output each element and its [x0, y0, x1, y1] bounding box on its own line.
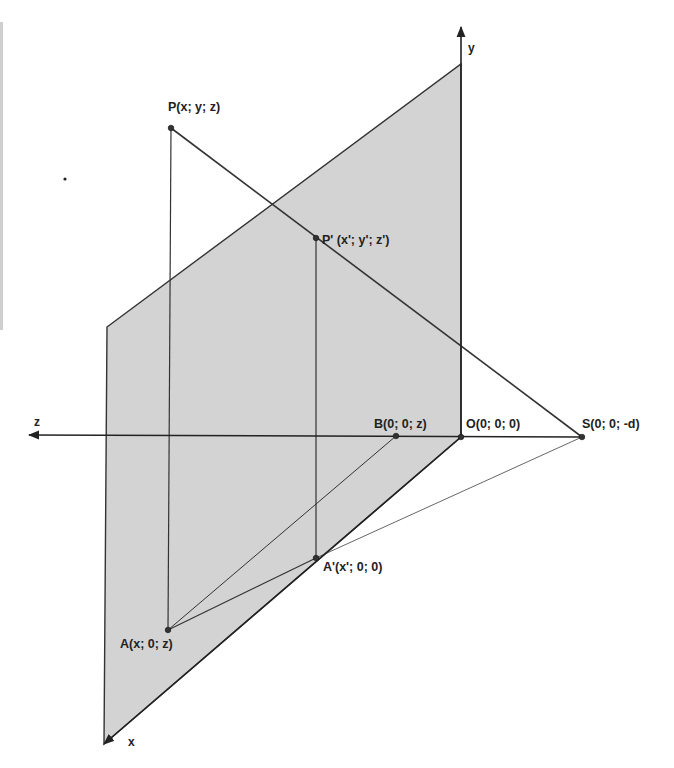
point-label-a-prime: A'(x'; 0; 0): [323, 560, 382, 574]
point-o: [458, 434, 464, 440]
y-axis-label: y: [468, 41, 475, 55]
z-axis-label: z: [34, 415, 40, 429]
point-label-s: S(0; 0; -d): [582, 417, 640, 431]
point-s: [579, 434, 585, 440]
stray-mark: [63, 177, 66, 180]
perspective-projection-diagram: xyz P(x; y; z)P' (x'; y'; z')B(0; 0; z)O…: [0, 0, 674, 768]
point-p-prime: [313, 235, 319, 241]
point-label-b: B(0; 0; z): [374, 417, 427, 431]
point-label-o: O(0; 0; 0): [466, 417, 520, 431]
point-p: [168, 125, 174, 131]
point-label-p-prime: P' (x'; y'; z'): [322, 233, 389, 247]
point-a: [165, 627, 171, 633]
point-a-prime: [313, 555, 319, 561]
point-b: [393, 433, 399, 439]
point-label-p: P(x; y; z): [168, 100, 220, 114]
x-axis-label: x: [128, 735, 135, 749]
point-label-a: A(x; 0; z): [120, 637, 173, 651]
